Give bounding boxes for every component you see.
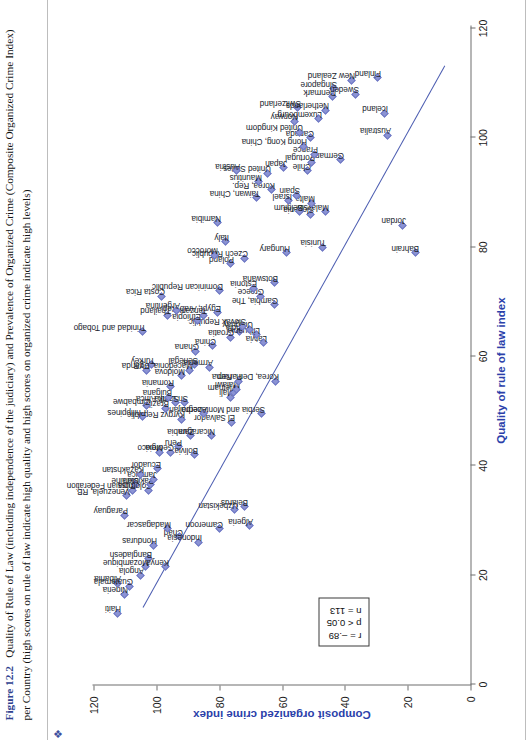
y-tick-label: 60 <box>276 696 288 708</box>
stat-n: n = 113 <box>327 603 362 616</box>
data-point-label: Hungary <box>259 243 289 252</box>
x-tick <box>470 355 475 356</box>
data-point-label: Spain <box>279 186 299 195</box>
data-point-label: Sweden <box>330 85 359 94</box>
stat-p: p < 0.05 <box>327 616 362 629</box>
data-point-label: Bolivia <box>174 445 197 454</box>
data-point-label: Panama <box>211 372 241 381</box>
figure-number-label: Figure 12.2 <box>2 666 14 720</box>
data-point-label: Italy <box>214 232 229 241</box>
data-point-label: Netherlands <box>286 101 329 110</box>
data-point-label: Peru <box>164 437 181 446</box>
data-point-label: Tunisia <box>300 238 325 247</box>
data-point-label: Bahrain <box>391 243 419 252</box>
data-point-label: Armenia <box>183 358 213 367</box>
y-tick-label: 20 <box>401 696 413 708</box>
data-point-label: Paraguay <box>94 506 128 515</box>
statistics-box: r = –.89 p < 0.05 n = 113 <box>319 597 370 646</box>
data-point-label: Indonesia <box>167 533 202 542</box>
data-point-label: Iceland <box>361 104 387 113</box>
data-point-label: Japan <box>265 158 287 167</box>
y-tick <box>219 685 220 690</box>
data-point-label: Namibia <box>191 213 220 222</box>
data-point-label: Romania <box>141 377 173 386</box>
data-point-label: Gambia, The <box>231 295 277 304</box>
x-tick <box>470 246 475 247</box>
figure-caption-text: Figure 12.2 Quality of Rule of Law (incl… <box>0 20 34 720</box>
data-point-label: Mauritius <box>229 172 261 181</box>
x-tick-label: 100 <box>476 129 488 147</box>
x-tick <box>470 27 475 28</box>
data-point-label: Madagascar <box>126 519 170 528</box>
data-point-label: Philippines <box>107 407 146 416</box>
figure-caption: Quality of Rule of Law (including indepe… <box>2 29 31 720</box>
data-point-label: Morocco <box>187 246 218 255</box>
y-axis-title: Composit organized crime index <box>93 708 470 720</box>
y-tick <box>344 685 345 690</box>
data-point-label: Brazil <box>149 399 169 408</box>
x-tick-label: 80 <box>476 241 488 253</box>
data-point-label: Algeria <box>227 516 252 525</box>
y-tick-label: 80 <box>213 696 225 708</box>
data-point-label: Botswana <box>242 273 277 282</box>
data-point-label: Angola <box>119 566 144 575</box>
data-point-label: China <box>195 336 216 345</box>
data-point-label: Belarus <box>220 497 247 506</box>
data-point-label: Jordan <box>382 216 406 225</box>
y-tick <box>282 685 283 690</box>
y-tick <box>407 685 408 690</box>
x-tick-label: 60 <box>476 350 488 362</box>
data-point-label: Guatemala <box>93 577 132 586</box>
y-axis-title-wrap: Composit organized crime index <box>470 719 471 720</box>
y-tick-label: 0 <box>464 696 476 702</box>
x-tick <box>470 464 475 465</box>
data-point-label: Finland <box>355 68 381 77</box>
x-tick-label: 20 <box>476 569 488 581</box>
data-point-label: Ecuador <box>131 459 161 468</box>
scatter-plot: 020406080100120 020406080100120 HaitiNig… <box>70 0 529 740</box>
data-point-label: Dominican Republic <box>151 281 222 290</box>
x-tick <box>470 683 475 684</box>
data-point-label: Zimbabwe <box>113 396 150 405</box>
data-point-label: Cameroon <box>185 519 222 528</box>
y-tick <box>156 685 157 690</box>
data-point-label: Haiti <box>104 604 120 613</box>
stat-r: r = –.89 <box>327 628 362 641</box>
data-point-label: Bangladesh <box>109 549 151 558</box>
data-point-label: Bulgaria <box>143 388 172 397</box>
data-point-label: Nicaragua <box>178 426 214 435</box>
data-point-label: Luxembourg <box>277 109 322 118</box>
diamond-bullet-icon: ❖ <box>52 728 63 738</box>
data-point-label: Australia <box>359 126 390 135</box>
rotated-figure: ❖ Figure 12.2 Quality of Rule of Law (in… <box>0 0 529 740</box>
x-tick <box>470 136 475 137</box>
data-point-label: Kenya <box>146 557 169 566</box>
y-tick <box>470 685 471 690</box>
data-point-label: Honduras <box>121 536 156 545</box>
x-tick-label: 0 <box>476 681 488 687</box>
data-point-label: Austria <box>215 161 240 170</box>
x-tick-label: 120 <box>476 19 488 37</box>
y-tick <box>93 685 94 690</box>
data-point-label: Trinidad and Tobago <box>73 322 145 331</box>
x-tick-label: 40 <box>476 460 488 472</box>
x-tick <box>470 574 475 575</box>
data-point-label: New Zealand <box>307 71 354 80</box>
figure-caption-block: ❖ Figure 12.2 Quality of Rule of Law (in… <box>0 0 70 740</box>
y-tick-label: 40 <box>338 696 350 708</box>
data-point-label: Thailand <box>140 306 171 315</box>
x-axis-title: Quality of rule of law index <box>494 0 506 740</box>
